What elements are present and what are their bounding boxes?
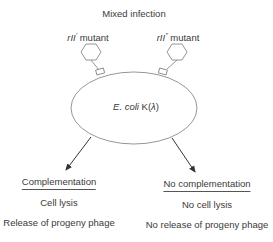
outcome-no-complementation-heading: No complementation <box>163 179 250 192</box>
cell-label: E. coli K(λ) <box>113 102 159 112</box>
phage-left-icon <box>81 44 105 75</box>
outcome-no-complementation-line2: No release of progeny phage <box>146 220 269 230</box>
outcome-complementation-line2: Release of progeny phage <box>3 218 114 228</box>
arrow-complementation-icon <box>66 137 91 170</box>
arrow-no-complementation-icon <box>172 138 195 172</box>
phage-right-label: rII" mutant <box>157 32 200 43</box>
outcome-complementation-heading: Complementation <box>22 177 96 190</box>
diagram-title: Mixed infection <box>102 9 165 19</box>
outcome-complementation-line1: Cell lysis <box>40 198 77 208</box>
phage-right-icon <box>158 44 187 75</box>
phage-left-label: rII' mutant <box>67 32 108 43</box>
outcome-no-complementation-line1: No cell lysis <box>182 200 232 210</box>
